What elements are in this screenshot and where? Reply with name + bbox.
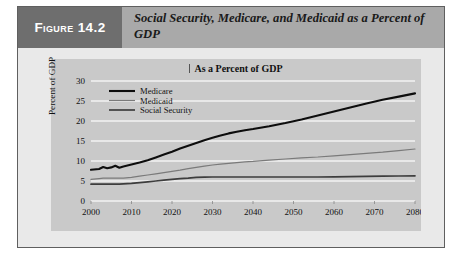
figure-card: Figure 14.2 Social Security, Medicare, a… — [17, 6, 445, 248]
figure-number-block: Figure 14.2 — [18, 7, 122, 48]
y-tick-label: 5 — [81, 176, 86, 186]
x-tick-label: 2080 — [406, 207, 421, 217]
chart-plot-area: 051015202530 200020102020203020402050206… — [51, 59, 421, 231]
x-tick-label: 2000 — [82, 207, 101, 217]
y-tick-label: 30 — [76, 76, 86, 86]
series-line-medicaid — [91, 149, 415, 179]
x-tick-label: 2060 — [325, 207, 344, 217]
series-line-social-security — [91, 176, 415, 184]
chart-panel: As a Percent of GDP Percent of GDP 05101… — [51, 59, 421, 231]
x-tick-label: 2050 — [285, 207, 304, 217]
legend-label-social-security: Social Security — [140, 105, 193, 115]
legend-label-medicaid: Medicaid — [140, 96, 173, 106]
y-tick-label: 20 — [76, 116, 86, 126]
x-tick-label: 2010 — [123, 207, 142, 217]
y-tick-label: 25 — [76, 96, 86, 106]
figure-root: Figure 14.2 Social Security, Medicare, a… — [0, 0, 452, 259]
x-tick-label: 2070 — [366, 207, 385, 217]
y-tick-label: 0 — [81, 196, 86, 206]
legend-label-medicare: Medicare — [140, 86, 173, 96]
figure-header-band: Figure 14.2 Social Security, Medicare, a… — [18, 7, 444, 48]
y-tick-label: 15 — [76, 136, 86, 146]
x-tick-label: 2040 — [244, 207, 263, 217]
figure-number-label: Figure 14.2 — [34, 20, 105, 35]
x-tick-labels-group: 200020102020203020402050206020702080 — [82, 201, 421, 217]
y-tick-labels-group: 051015202530 — [76, 76, 86, 206]
y-tick-label: 10 — [76, 156, 86, 166]
x-tick-label: 2030 — [204, 207, 223, 217]
figure-title: Social Security, Medicare, and Medicaid … — [134, 11, 434, 42]
x-tick-label: 2020 — [163, 207, 182, 217]
